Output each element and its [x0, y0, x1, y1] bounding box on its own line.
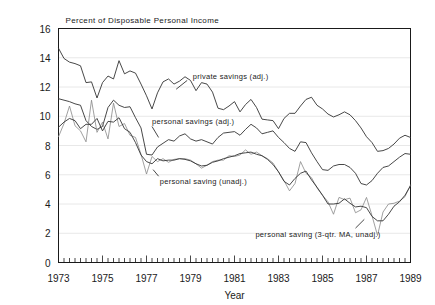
series-line-0 [59, 48, 411, 151]
annotation-leader-3 [356, 219, 365, 228]
chart-svg: 0246810121416197319751977197919811983198… [0, 0, 435, 305]
y-tick-label-0: 0 [45, 258, 51, 269]
x-tick-label-1973: 1973 [47, 273, 70, 284]
y-tick-label-10: 10 [39, 111, 51, 122]
y-tick-label-2: 2 [45, 228, 51, 239]
y-tick-label-4: 4 [45, 199, 51, 210]
series-line-2 [59, 100, 411, 235]
x-tick-label-1981: 1981 [223, 273, 246, 284]
y-tick-label-8: 8 [45, 141, 51, 152]
x-tick-label-1979: 1979 [179, 273, 202, 284]
annotation-label-2: personal saving (unadj.) [160, 177, 247, 186]
chart-title: Percent of Disposable Personal Income [66, 16, 220, 25]
y-tick-label-12: 12 [39, 82, 51, 93]
x-tick-label-1983: 1983 [267, 273, 290, 284]
y-tick-label-14: 14 [39, 53, 51, 64]
annotation-label-3: personal saving (3-qtr. MA, unadj.) [255, 230, 380, 239]
x-tick-label-1975: 1975 [91, 273, 114, 284]
annotation-label-1: personal savings (adj.) [152, 117, 235, 126]
series-line-1 [59, 99, 411, 185]
chart-figure: 0246810121416197319751977197919811983198… [0, 0, 435, 305]
x-tick-label-1987: 1987 [355, 273, 378, 284]
annotation-label-0: private savings (adj.) [193, 72, 269, 81]
x-tick-label-1985: 1985 [311, 273, 334, 284]
x-axis-label: Year [224, 290, 245, 301]
y-tick-label-6: 6 [45, 170, 51, 181]
annotation-leader-1 [152, 126, 159, 137]
x-tick-label-1977: 1977 [135, 273, 158, 284]
y-tick-label-16: 16 [39, 24, 51, 35]
series-line-3 [59, 118, 411, 221]
x-tick-label-1989: 1989 [399, 273, 422, 284]
